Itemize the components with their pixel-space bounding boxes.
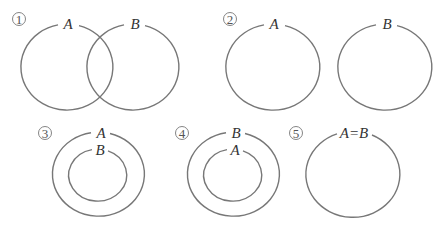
panel-number: 2 [227, 12, 234, 27]
inner-set-label: A [229, 142, 240, 158]
panel-5-equal: 5 A=B [290, 125, 400, 217]
set-a-label: A [268, 16, 279, 32]
panel-number: 5 [293, 126, 300, 141]
panel-4-a-subset-b: 4 B A [176, 125, 280, 216]
panel-number: 4 [179, 126, 186, 141]
set-equal-label: A=B [339, 125, 368, 141]
panel-3-b-subset-a: 3 A B [39, 125, 145, 216]
set-diagrams-canvas: 1 A B 2 A B 3 A B 4 B A 5 A=B [0, 0, 444, 234]
panel-number: 3 [42, 126, 49, 141]
set-b-label: B [382, 16, 391, 32]
panel-1-overlap: 1 A B [13, 12, 179, 111]
panel-number: 1 [16, 12, 23, 27]
set-a-label: A [62, 16, 73, 32]
set-b-label: B [130, 16, 139, 32]
set-a-circle [226, 25, 320, 110]
outer-set-label: B [231, 125, 240, 141]
inner-set-label: B [95, 142, 104, 158]
set-a-equals-b-circle [306, 134, 400, 217]
set-b-circle [338, 25, 432, 110]
panel-2-disjoint: 2 A B [224, 12, 432, 111]
outer-set-label: A [95, 125, 106, 141]
